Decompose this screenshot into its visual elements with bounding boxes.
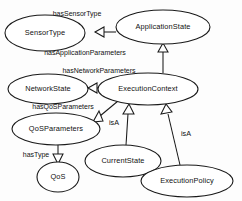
node-qos-parameters-label: QoSParameters <box>29 124 83 133</box>
node-execution-context-label: ExecutionContext <box>118 84 178 93</box>
edge-isA-executionPolicy: isA <box>161 104 191 165</box>
diagram-canvas: hasSensorType hasApplicationParameters h… <box>0 0 242 201</box>
edge-hasNetworkParameters-arrowhead <box>88 83 97 93</box>
node-network-state-label: NetworkState <box>25 84 71 93</box>
node-sensor-type-label: SensorType <box>25 28 65 37</box>
node-sensor-type[interactable]: SensorType <box>5 15 85 51</box>
node-execution-context[interactable]: ExecutionContext <box>98 73 198 105</box>
edge-hasType: hasType <box>23 145 63 164</box>
node-qos-parameters[interactable]: QoSParameters <box>12 113 100 145</box>
edge-hasQoSParameters-arrowhead <box>93 111 103 122</box>
edge-isA-currentState: isA <box>109 104 134 145</box>
node-application-state-label: ApplicationState <box>135 22 190 31</box>
node-application-state[interactable]: ApplicationState <box>116 10 210 44</box>
edge-isA-executionPolicy-label: isA <box>181 129 191 138</box>
edge-isA-executionPolicy-line <box>168 114 180 165</box>
edge-isA-currentState-arrowhead <box>123 104 134 114</box>
edge-hasQoSParameters-line <box>100 101 118 116</box>
ontology-diagram: hasSensorType hasApplicationParameters h… <box>0 0 242 201</box>
edge-hasSensorType-arrowhead <box>95 27 104 37</box>
node-network-state[interactable]: NetworkState <box>8 74 88 104</box>
edge-hasNetworkParameters-label: hasNetworkParameters <box>62 67 136 74</box>
node-qos[interactable]: QoS <box>37 162 79 192</box>
edge-hasType-label: hasType <box>23 151 50 159</box>
node-execution-policy[interactable]: ExecutionPolicy <box>141 165 233 197</box>
edge-isA-currentState-line <box>126 114 128 145</box>
edge-isA-currentState-label: isA <box>109 118 119 127</box>
node-qos-label: QoS <box>50 172 65 181</box>
node-execution-policy-label: ExecutionPolicy <box>160 176 214 185</box>
node-current-state-label: CurrentState <box>101 156 144 165</box>
edge-isA-executionPolicy-arrowhead <box>161 104 172 114</box>
